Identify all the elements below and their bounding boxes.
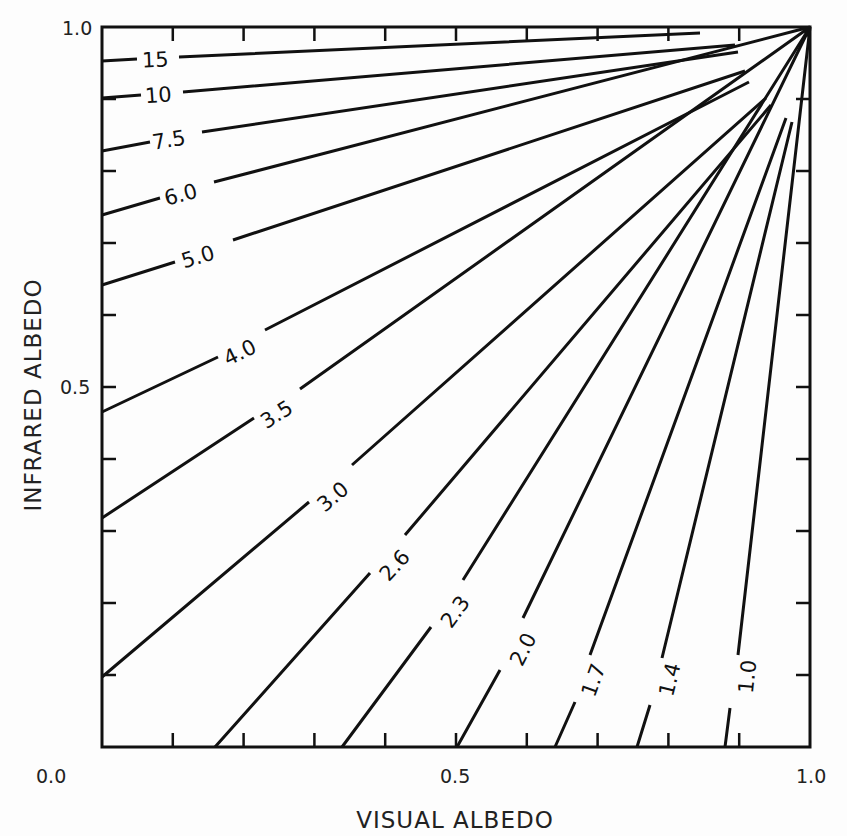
y-axis-title: INFRARED ALBEDO	[20, 278, 46, 511]
contour-label-10: 10	[144, 82, 172, 108]
y-tick-label-0.5: 0.5	[60, 376, 90, 398]
x-tick-label-0.5: 0.5	[440, 765, 470, 787]
contour-label-2.3: 2.3	[436, 591, 475, 632]
y-tick-label-1.0: 1.0	[62, 17, 92, 39]
x-tick-label-1.0: 1.0	[796, 765, 826, 787]
contour-line-3.0	[102, 98, 766, 677]
contour-label-1.7: 1.7	[577, 660, 611, 700]
contour-label-4.0: 4.0	[220, 335, 261, 371]
contour-line-2.0	[457, 27, 810, 747]
contour-label-3.5: 3.5	[256, 396, 297, 434]
contour-line-1.7	[555, 118, 786, 747]
x-axis-title: VISUAL ALBEDO	[356, 807, 553, 833]
contour-label-2.6: 2.6	[375, 545, 415, 586]
contour-lines	[102, 27, 810, 747]
axis-ticks	[102, 27, 810, 747]
contour-label-2.0: 2.0	[505, 629, 542, 670]
contour-label-7.5: 7.5	[151, 126, 188, 155]
contour-label-6.0: 6.0	[161, 179, 199, 211]
contour-label-5.0: 5.0	[178, 241, 217, 274]
plot-frame	[102, 27, 810, 747]
contour-label-3.0: 3.0	[313, 477, 354, 517]
albedo-ratio-chart: 15 10 7.5 6.0 5.0 4.0 3.5 3.0 2.6 2.3 2.…	[0, 0, 847, 836]
contour-label-1.4: 1.4	[654, 661, 685, 699]
contour-labels: 15 10 7.5 6.0 5.0 4.0 3.5 3.0 2.6 2.3 2.…	[142, 48, 762, 700]
contour-line-3.5	[102, 27, 810, 518]
contour-line-2.6	[215, 105, 771, 747]
x-tick-label-0.0: 0.0	[36, 765, 66, 787]
contour-line-1.4	[637, 122, 792, 747]
contour-label-1.0: 1.0	[734, 659, 761, 695]
contour-label-15: 15	[142, 48, 170, 73]
